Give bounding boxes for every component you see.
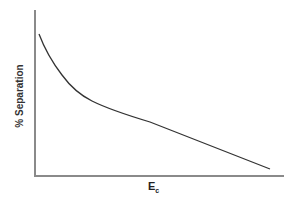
x-axis-label: Ec xyxy=(148,180,159,194)
separation-curve xyxy=(39,34,270,169)
y-axis-label: % Separation xyxy=(14,64,25,127)
chart-canvas xyxy=(0,0,298,202)
x-axis-label-subscript: c xyxy=(155,187,159,194)
